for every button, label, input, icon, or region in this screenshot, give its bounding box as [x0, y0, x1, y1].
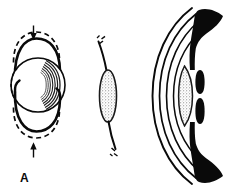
- figure-container: A: [0, 0, 227, 194]
- iris-leaf-superior: [195, 70, 204, 94]
- panel-label: A: [20, 172, 29, 184]
- lens-sphere: [11, 58, 65, 112]
- iris-leaf-inferior: [195, 98, 204, 124]
- anatomical-illustration: [0, 0, 227, 194]
- lens-ellipse-cross-section: [100, 70, 117, 122]
